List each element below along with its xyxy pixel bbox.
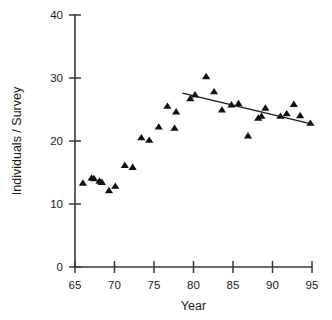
data-markers	[79, 73, 315, 193]
data-point-marker	[172, 108, 180, 114]
y-tick-label: 10	[50, 198, 63, 210]
x-tick-label: 80	[187, 279, 200, 291]
data-point-marker	[79, 179, 87, 185]
y-tick-label: 0	[57, 261, 63, 273]
y-tick-label: 20	[50, 135, 63, 147]
x-tick-label: 75	[148, 279, 161, 291]
data-point-marker	[261, 104, 269, 110]
data-point-marker	[155, 123, 163, 129]
chart-figure: 01020304065707580859095 Year Individuals…	[0, 0, 332, 320]
axes	[75, 15, 312, 267]
data-point-marker	[210, 88, 218, 94]
data-point-marker	[283, 110, 291, 116]
data-point-marker	[244, 132, 252, 138]
data-point-marker	[137, 134, 145, 140]
y-tick-label: 30	[50, 72, 63, 84]
data-point-marker	[105, 187, 113, 193]
y-axis-label: Individuals / Survey	[10, 86, 24, 195]
x-tick-label: 70	[108, 279, 121, 291]
data-point-marker	[170, 124, 178, 130]
y-tick-label: 40	[50, 9, 63, 21]
trend-line	[182, 93, 311, 124]
x-axis-label: Year	[181, 299, 206, 313]
x-tick-label: 95	[306, 279, 319, 291]
data-point-marker	[121, 162, 129, 168]
data-point-marker	[163, 102, 171, 108]
scatter-plot: 01020304065707580859095 Year Individuals…	[0, 0, 332, 320]
data-point-marker	[218, 106, 226, 112]
data-point-marker	[202, 73, 210, 79]
data-point-marker	[145, 136, 153, 142]
axis-tick-labels: 01020304065707580859095	[50, 9, 318, 291]
x-tick-label: 85	[227, 279, 240, 291]
regression-line	[182, 93, 311, 124]
data-point-marker	[129, 163, 137, 169]
data-point-marker	[296, 112, 304, 118]
axis-ticks	[69, 15, 312, 273]
data-point-marker	[290, 100, 298, 106]
data-point-marker	[111, 182, 119, 188]
x-tick-label: 90	[266, 279, 279, 291]
x-tick-label: 65	[69, 279, 82, 291]
